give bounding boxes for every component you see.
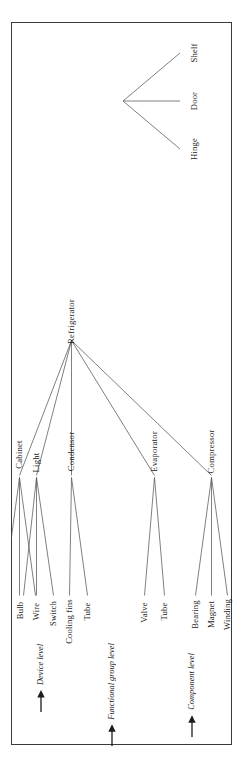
cabinet-subtree-overlay: Shelf Door Hinge <box>12 23 233 746</box>
node-hinge[interactable]: Hinge <box>190 138 199 160</box>
level-annotation-device: Device level <box>37 644 46 712</box>
up-arrow-icon <box>37 690 46 712</box>
level-label-component: Component level <box>188 653 196 710</box>
figure-frame: Refrigerator Compressor Evaporator Conde… <box>11 22 232 745</box>
node-door[interactable]: Door <box>190 92 199 110</box>
cabinet-edge-layer <box>12 23 233 746</box>
node-shelf[interactable]: Shelf <box>190 44 199 63</box>
level-annotation-group: Functional group level <box>108 643 117 746</box>
edge-cabinet-shelf-v <box>123 53 180 101</box>
level-annotation-component: Component level <box>188 653 197 737</box>
edge-cabinet-hinge-v <box>123 101 180 149</box>
up-arrow-icon <box>108 725 117 747</box>
level-label-group: Functional group level <box>108 643 116 719</box>
up-arrow-icon <box>188 715 197 737</box>
level-label-device: Device level <box>37 644 45 685</box>
